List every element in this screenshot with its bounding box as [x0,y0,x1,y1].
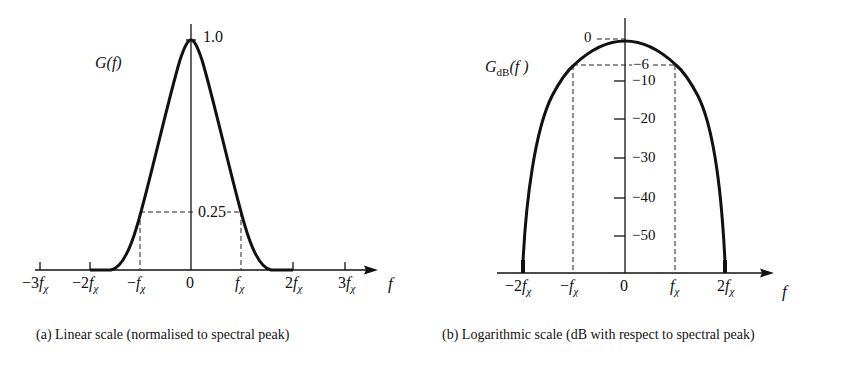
ylabel-a-close: ) [116,54,121,71]
panel-a-linear-chart [35,24,378,275]
y-tick-label: −30 [632,149,655,166]
x-tick-label: −2fχ [505,277,531,297]
ref-label-a: 0.25 [197,203,227,221]
ylabel-a-func: G( [95,54,112,71]
caption-b: (b) Logarithmic scale (dB with respect t… [442,327,755,343]
y-tick-label: 0 [584,29,592,46]
peak-label-a: 1.0 [203,28,223,46]
reference-lines-b [573,39,675,273]
ylabel-b-args: (f ) [509,58,528,75]
xlabel-b: f [782,282,787,302]
x-tick-label: −3fχ [22,274,48,294]
y-tick-label: −40 [632,189,655,206]
x-tick-label: −fχ [127,274,145,294]
x-tick-label: 0 [620,277,628,295]
x-ticks-a [40,262,345,270]
y-tick-label: −10 [632,72,655,89]
xlabel-a: f [388,274,393,294]
x-tick-label: −fχ [560,277,578,297]
y-tick-label: −50 [632,227,655,244]
x-axis-arrow-icon [364,266,378,275]
ylabel-b-sub: dB [497,66,510,78]
ylabel-b-func: G [485,58,497,75]
x-axis-arrow-icon [760,269,774,278]
y-tick-label: −6 [632,56,650,73]
x-tick-label: fχ [670,277,679,297]
x-tick-label: 2fχ [717,277,734,297]
x-tick-label: 3fχ [338,274,355,294]
figure-canvas [0,0,858,373]
panel-b-ylabel: GdB(f ) [485,58,529,78]
y-ticks-b [614,81,625,236]
x-tick-label: 2fχ [285,274,302,294]
g-db-curve [523,41,725,273]
caption-a: (a) Linear scale (normalised to spectral… [36,327,289,343]
x-tick-label: −2fχ [72,274,98,294]
panel-a-ylabel: G(f) [95,54,122,72]
x-tick-label: fχ [235,274,244,294]
y-tick-label: −20 [632,110,655,127]
x-tick-label: 0 [186,274,194,292]
